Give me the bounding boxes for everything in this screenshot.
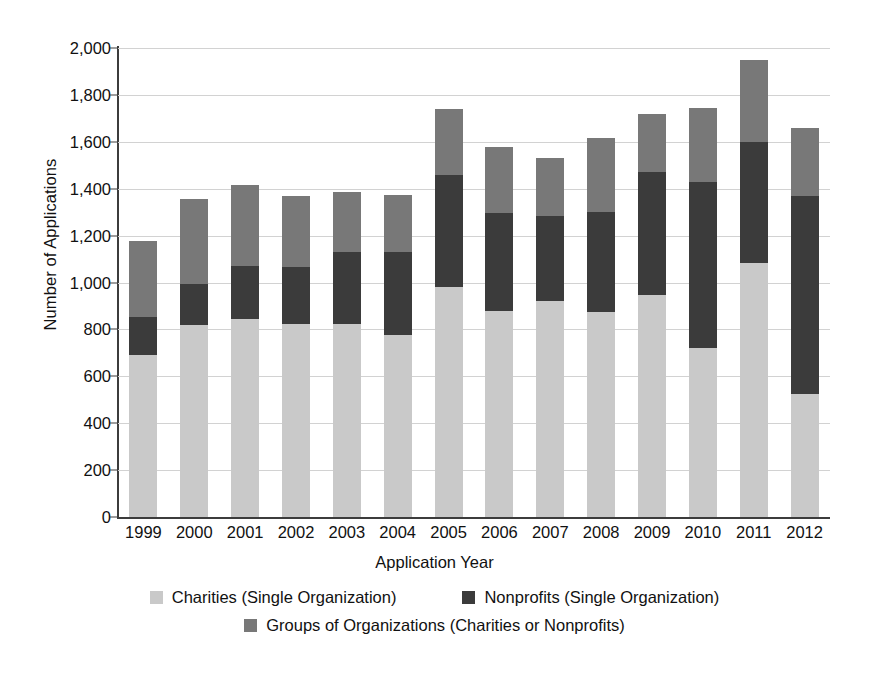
bar-group[interactable] — [485, 48, 513, 517]
bar-segment-0[interactable] — [740, 263, 768, 517]
bar-segment-1[interactable] — [333, 252, 361, 324]
bar-segment-1[interactable] — [740, 142, 768, 263]
bar-group[interactable] — [587, 48, 615, 517]
x-tick-label: 2009 — [634, 523, 671, 542]
plot-area — [118, 48, 830, 517]
x-tick-label: 2003 — [328, 523, 365, 542]
legend-label-charities: Charities (Single Organization) — [172, 588, 397, 607]
bar-segment-2[interactable] — [689, 108, 717, 182]
bar-group[interactable] — [333, 48, 361, 517]
x-tick-label: 2002 — [278, 523, 315, 542]
bar-segment-0[interactable] — [485, 311, 513, 517]
bar-segment-1[interactable] — [435, 175, 463, 288]
y-tick-label: 200 — [31, 461, 111, 480]
bar-group[interactable] — [129, 48, 157, 517]
bar-segment-1[interactable] — [536, 216, 564, 302]
bar-segment-2[interactable] — [180, 199, 208, 283]
bar-segment-1[interactable] — [791, 196, 819, 394]
bar-segment-2[interactable] — [485, 147, 513, 214]
bar-segment-0[interactable] — [129, 355, 157, 517]
legend-item-nonprofits[interactable]: Nonprofits (Single Organization) — [462, 588, 719, 607]
gridline — [118, 517, 830, 519]
bar-segment-0[interactable] — [333, 324, 361, 517]
bar-segment-1[interactable] — [689, 182, 717, 348]
bar-segment-1[interactable] — [282, 267, 310, 323]
bar-segment-0[interactable] — [791, 394, 819, 517]
bar-group[interactable] — [384, 48, 412, 517]
bar-segment-2[interactable] — [384, 195, 412, 252]
chart-legend: Charities (Single Organization) Nonprofi… — [0, 588, 869, 644]
bar-segment-2[interactable] — [536, 158, 564, 215]
x-tick-label: 2006 — [481, 523, 518, 542]
bar-group[interactable] — [740, 48, 768, 517]
x-tick-label: 2007 — [532, 523, 569, 542]
bar-segment-0[interactable] — [689, 348, 717, 517]
bar-segment-2[interactable] — [740, 60, 768, 142]
bar-segment-0[interactable] — [536, 301, 564, 517]
bar-segment-0[interactable] — [231, 319, 259, 517]
bar-chart: Number of Applications 02004006008001,00… — [0, 0, 869, 675]
legend-row-bottom: Groups of Organizations (Charities or No… — [0, 616, 869, 635]
bar-series-container — [118, 48, 830, 517]
bar-segment-2[interactable] — [791, 128, 819, 196]
bar-group[interactable] — [791, 48, 819, 517]
bar-segment-0[interactable] — [638, 295, 666, 517]
bar-segment-0[interactable] — [587, 312, 615, 517]
bar-segment-1[interactable] — [231, 266, 259, 319]
legend-label-nonprofits: Nonprofits (Single Organization) — [484, 588, 719, 607]
bar-segment-1[interactable] — [180, 284, 208, 325]
bar-segment-2[interactable] — [638, 114, 666, 173]
y-tick-label: 2,000 — [31, 39, 111, 58]
legend-swatch-groups-icon — [244, 619, 257, 632]
bar-segment-2[interactable] — [435, 109, 463, 175]
bar-segment-2[interactable] — [587, 138, 615, 212]
x-tick-label: 2000 — [176, 523, 213, 542]
bar-group[interactable] — [282, 48, 310, 517]
legend-label-groups: Groups of Organizations (Charities or No… — [266, 616, 625, 635]
bar-segment-1[interactable] — [129, 317, 157, 356]
x-tick-label: 2010 — [684, 523, 721, 542]
bar-segment-0[interactable] — [180, 325, 208, 517]
bar-segment-2[interactable] — [282, 196, 310, 268]
bar-segment-2[interactable] — [129, 241, 157, 316]
bar-segment-1[interactable] — [638, 172, 666, 295]
legend-swatch-nonprofits-icon — [462, 591, 475, 604]
x-tick-label: 2012 — [786, 523, 823, 542]
legend-swatch-charities-icon — [150, 591, 163, 604]
x-tick-label: 1999 — [125, 523, 162, 542]
x-tick-label: 2008 — [583, 523, 620, 542]
bar-group[interactable] — [180, 48, 208, 517]
legend-row-top: Charities (Single Organization) Nonprofi… — [0, 588, 869, 607]
bar-group[interactable] — [231, 48, 259, 517]
x-tick-label: 2011 — [736, 523, 771, 542]
bar-group[interactable] — [689, 48, 717, 517]
bar-segment-0[interactable] — [435, 287, 463, 517]
bar-segment-2[interactable] — [231, 185, 259, 266]
y-tick-label: 400 — [31, 414, 111, 433]
x-tick-label: 2001 — [227, 523, 264, 542]
bar-group[interactable] — [638, 48, 666, 517]
bar-segment-1[interactable] — [587, 212, 615, 312]
bar-segment-1[interactable] — [485, 213, 513, 310]
bar-group[interactable] — [435, 48, 463, 517]
y-tick-label: 0 — [31, 508, 111, 527]
legend-item-charities[interactable]: Charities (Single Organization) — [150, 588, 397, 607]
x-axis-title: Application Year — [0, 553, 869, 572]
x-tick-label: 2005 — [430, 523, 467, 542]
bar-segment-0[interactable] — [384, 335, 412, 517]
bar-segment-1[interactable] — [384, 252, 412, 335]
bar-group[interactable] — [536, 48, 564, 517]
bar-segment-2[interactable] — [333, 192, 361, 252]
legend-item-groups[interactable]: Groups of Organizations (Charities or No… — [244, 616, 625, 635]
y-axis-title: Number of Applications — [41, 85, 60, 405]
x-tick-label: 2004 — [379, 523, 416, 542]
bar-segment-0[interactable] — [282, 324, 310, 517]
